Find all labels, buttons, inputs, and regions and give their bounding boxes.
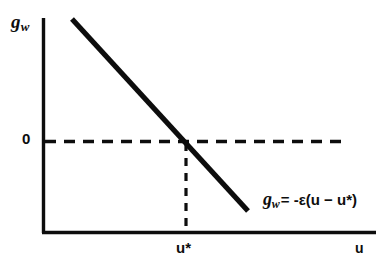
y-axis-label-subscript: w [21, 19, 29, 34]
equation-lhs-subscript: w [272, 197, 280, 211]
y-axis-zero-tick-label: 0 [22, 131, 30, 146]
equation-lhs-symbol: g [263, 189, 272, 209]
y-axis-label: gw [11, 12, 29, 33]
equation-rhs: = -ε(u − u*) [281, 191, 357, 208]
x-axis-label: u [355, 241, 364, 255]
wage-growth-schedule-line [72, 19, 248, 211]
x-axis-ustar-tick-label: u* [176, 240, 191, 255]
y-axis-label-symbol: g [11, 11, 20, 32]
figure-canvas [0, 0, 383, 271]
equation-annotation: gw= -ε(u − u*) [263, 190, 357, 210]
wage-growth-phillips-curve-figure: gw 0 u* u gw= -ε(u − u*) [0, 0, 383, 271]
